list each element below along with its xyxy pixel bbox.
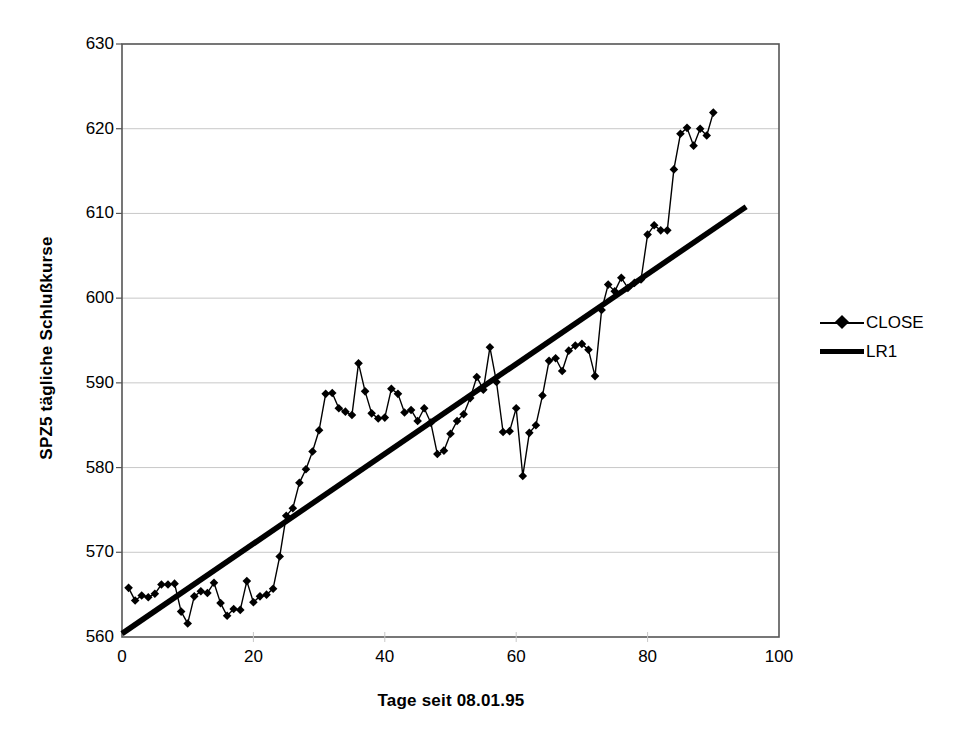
close-data-point	[643, 230, 652, 239]
close-data-point	[243, 577, 252, 586]
close-data-point	[486, 343, 495, 352]
close-data-point	[354, 359, 363, 368]
close-data-point	[709, 108, 718, 117]
close-data-point	[446, 429, 455, 438]
close-data-point	[321, 390, 330, 399]
plot-area	[0, 0, 977, 745]
legend-item-lr1[interactable]: LR1	[820, 337, 955, 366]
close-polyline	[129, 113, 714, 624]
diamond-marker-icon	[835, 314, 849, 328]
chart-container: SPZ5 tägliche Schlußkurse 63062061060059…	[0, 0, 977, 745]
close-data-point	[538, 391, 547, 400]
close-data-point	[302, 465, 311, 474]
close-data-point	[512, 404, 521, 413]
close-data-point	[689, 141, 698, 150]
close-data-point	[164, 580, 173, 589]
close-data-point	[124, 584, 133, 593]
legend-line-swatch	[820, 349, 864, 354]
close-data-point	[381, 413, 390, 422]
close-data-point	[499, 428, 508, 437]
series-lr1-trendline	[122, 207, 746, 634]
close-data-point	[328, 389, 337, 398]
close-data-point	[617, 274, 626, 283]
close-data-point	[413, 417, 422, 426]
series-close-line	[129, 113, 714, 624]
gridlines	[122, 129, 779, 553]
close-data-point	[670, 165, 679, 174]
close-data-point	[236, 606, 245, 615]
close-data-point	[361, 387, 370, 396]
close-data-point	[558, 367, 567, 376]
close-data-point	[505, 427, 514, 436]
x-axis-title: Tage seit 08.01.95	[122, 691, 780, 711]
legend-label: LR1	[864, 342, 897, 361]
legend-key-icon	[820, 342, 864, 362]
legend-key-icon	[820, 313, 864, 333]
close-data-point	[275, 552, 284, 561]
legend-label: CLOSE	[864, 313, 924, 332]
close-data-point	[663, 226, 672, 235]
legend-item-close[interactable]: CLOSE	[820, 308, 955, 337]
close-data-point	[472, 373, 481, 382]
series-close-markers	[124, 108, 717, 627]
close-data-point	[295, 479, 304, 488]
close-data-point	[308, 447, 317, 456]
close-data-point	[170, 579, 179, 588]
close-data-point	[518, 472, 527, 481]
close-data-point	[203, 589, 212, 598]
close-data-point	[216, 599, 225, 608]
close-data-point	[420, 404, 429, 413]
chart-legend: CLOSELR1	[820, 306, 955, 368]
close-data-point	[183, 619, 192, 628]
close-data-point	[177, 607, 186, 616]
close-data-point	[591, 372, 600, 381]
close-data-point	[315, 426, 324, 435]
close-data-point	[210, 578, 219, 587]
lr1-trendline	[122, 207, 746, 634]
